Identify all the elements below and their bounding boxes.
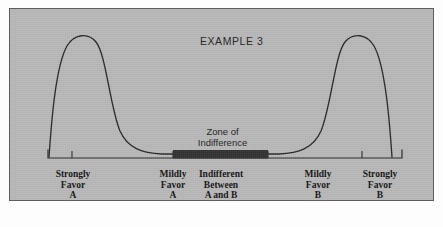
axis-label-line-1: Indifferent [175, 169, 267, 180]
axis-label-strongly-favor-a: Strongly Favor A [28, 169, 118, 200]
chart-panel: EXAMPLE 3 Zone of Indifference Strongly … [10, 9, 433, 200]
axis-label-line-2: Between [175, 180, 267, 191]
axis-label-indifferent-between-a-and-b: Indifferent Between A and B [175, 169, 267, 200]
zone-of-indifference-bar [173, 150, 268, 159]
axis-label-line-3: B [335, 190, 425, 200]
zone-annotation-line-2: Indifference [198, 137, 247, 148]
axis-label-row: Strongly Favor A Mildly Favor A Indiffer… [10, 169, 433, 200]
figure-container: EXAMPLE 3 Zone of Indifference Strongly … [0, 0, 443, 227]
chart-title: EXAMPLE 3 [200, 35, 263, 47]
axis-label-line-3: A [28, 190, 118, 200]
axis-label-line-1: Strongly [335, 169, 425, 180]
axis-label-line-1: Strongly [28, 169, 118, 180]
axis-label-line-2: Favor [28, 180, 118, 191]
axis-label-line-3: A and B [175, 190, 267, 200]
axis-label-strongly-favor-b: Strongly Favor B [335, 169, 425, 200]
zone-annotation-line-1: Zone of [206, 126, 238, 137]
figure-frame: EXAMPLE 3 Zone of Indifference Strongly … [9, 8, 434, 201]
axis-label-line-2: Favor [335, 180, 425, 191]
zone-of-indifference-annotation: Zone of Indifference [160, 126, 285, 148]
